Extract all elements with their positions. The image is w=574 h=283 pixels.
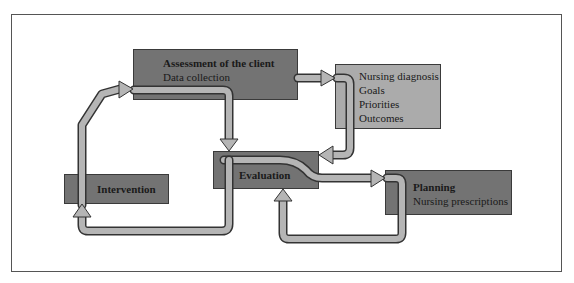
goals-line: Goals <box>359 84 385 96</box>
arrowhead-into-evaluation-right <box>319 146 333 164</box>
flow-arrows <box>0 0 574 283</box>
outcomes-line: Outcomes <box>359 112 404 124</box>
arrowhead-into-evaluation-bottom <box>274 189 292 201</box>
planning-title: Planning <box>413 181 455 193</box>
arrow-planning-to-evaluation <box>283 178 402 239</box>
arrow-assessment-to-evaluation <box>134 90 229 140</box>
arrowhead-into-evaluation-top <box>220 139 238 151</box>
arrowhead-into-intervention <box>73 204 91 217</box>
planning-subtitle: Nursing prescriptions <box>413 195 508 207</box>
arrowhead-into-planning <box>371 170 385 187</box>
evaluation-label: Evaluation <box>239 168 290 182</box>
assessment-label: Assessment of the client Data collection <box>163 56 275 84</box>
diagnosis-line: Nursing diagnosis <box>359 70 439 82</box>
assessment-title: Assessment of the client <box>163 57 275 69</box>
diagnosis-label: Nursing diagnosis Goals Priorities Outco… <box>359 69 439 125</box>
intervention-title: Intervention <box>97 183 156 195</box>
arrowhead-into-diagnosis <box>321 70 335 86</box>
arrowhead-into-assessment <box>119 81 133 98</box>
planning-label: Planning Nursing prescriptions <box>413 180 508 208</box>
priorities-line: Priorities <box>359 98 399 110</box>
intervention-label: Intervention <box>97 182 156 196</box>
evaluation-title: Evaluation <box>239 169 290 181</box>
assessment-subtitle: Data collection <box>163 71 230 83</box>
